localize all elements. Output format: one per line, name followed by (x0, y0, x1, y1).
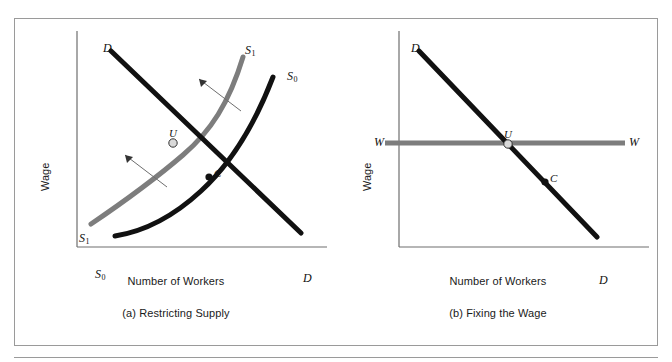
supply-original-curve (115, 77, 273, 236)
point-competitive-equilibrium (541, 178, 548, 185)
label-supply-original-top: S0 (287, 69, 297, 84)
y-axis-label-a: Wage (39, 163, 51, 191)
point-label-competitive-b: C (550, 172, 557, 184)
panel-restricting-supply: D D S1 S1 S0 S0 U C Wage Number of Worke… (15, 19, 337, 347)
panel-fixing-the-wage: D D W W U C Wage Number of Workers (b) F… (337, 19, 659, 347)
panel-a-plot (15, 19, 337, 269)
supply-original-top-subscript: 0 (294, 75, 298, 84)
x-axis-label-b: Number of Workers (337, 275, 659, 287)
label-wage-right: W (629, 135, 639, 150)
supply-restricted-top-subscript: 1 (252, 49, 256, 58)
supply-restricted-curve (91, 57, 243, 224)
point-label-union-a: U (169, 127, 177, 139)
point-label-competitive-a: C (214, 167, 221, 179)
x-axis-label-a: Number of Workers (15, 275, 337, 287)
label-demand-top-a: D (103, 41, 112, 56)
point-union-equilibrium (169, 139, 177, 147)
figure-frame: D D S1 S1 S0 S0 U C Wage Number of Worke… (14, 18, 658, 346)
bottom-divider-rule (14, 357, 658, 358)
panel-caption-b: (b) Fixing the Wage (337, 307, 659, 319)
point-competitive-equilibrium (205, 173, 212, 180)
point-label-union-b: U (504, 128, 512, 140)
label-supply-restricted-bottom: S1 (79, 231, 89, 246)
supply-restricted-bottom-subscript: 1 (86, 237, 90, 246)
y-axis-label-b: Wage (361, 163, 373, 191)
panel-caption-a: (a) Restricting Supply (15, 307, 337, 319)
label-wage-left: W (374, 135, 384, 150)
panel-b-plot (337, 19, 659, 269)
label-supply-restricted-top: S1 (245, 43, 255, 58)
point-union-wage (504, 140, 512, 148)
label-demand-top-b: D (411, 41, 420, 56)
